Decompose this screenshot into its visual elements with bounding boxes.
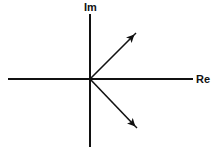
upper-vector-arrow	[90, 36, 133, 79]
real-axis-label: Re	[196, 73, 210, 85]
upper-vector-tail	[131, 33, 136, 38]
lower-vector-tail	[132, 123, 137, 128]
complex-plane-diagram: Im Re	[0, 0, 215, 159]
imaginary-axis-label: Im	[84, 1, 97, 13]
lower-vector-arrow	[90, 79, 134, 125]
